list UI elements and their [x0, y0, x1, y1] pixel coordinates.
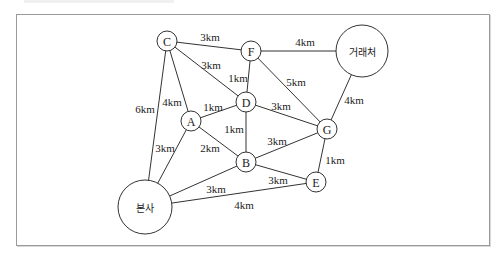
node-B: B: [236, 152, 256, 172]
node-label: C: [163, 35, 171, 49]
edge-distance-label: 4km: [162, 96, 182, 108]
node-label: E: [312, 176, 319, 190]
edge-distance-label: 1km: [224, 123, 244, 135]
edge-distance-label: 3km: [271, 100, 291, 112]
edge-distance-label: 4km: [295, 36, 315, 48]
edge-distance-label: 3km: [155, 142, 175, 154]
node-label: 본사: [136, 203, 154, 214]
node-A: A: [181, 111, 201, 131]
node-label: D: [242, 96, 251, 110]
edge-distance-label: 4km: [344, 94, 364, 106]
node-E: E: [306, 172, 326, 192]
edge-distance-label: 3km: [206, 183, 226, 195]
node-hq: 본사: [118, 180, 172, 234]
edge-distance-label: 4km: [234, 199, 254, 211]
edge-C-A: [167, 41, 191, 121]
node-label: F: [248, 45, 255, 59]
edge-distance-label: 1km: [325, 154, 345, 166]
node-C: C: [157, 31, 177, 51]
node-client: 거래처: [336, 25, 388, 77]
node-label: A: [187, 115, 196, 129]
node-D: D: [236, 92, 256, 112]
edge-distance-label: 3km: [201, 59, 221, 71]
node-G: G: [317, 119, 337, 139]
edge-distance-label: 2km: [200, 142, 220, 154]
edge-distance-label: 5km: [286, 76, 306, 88]
node-F: F: [241, 41, 261, 61]
edge-distance-label: 1km: [228, 72, 248, 84]
edge-distance-label: 6km: [135, 103, 155, 115]
node-label: 거래처: [349, 47, 376, 58]
edge-distance-label: 3km: [268, 174, 288, 186]
edge-F-G: [251, 51, 327, 129]
network-graph: 3km3km4km6km4km1km5km4km1km3km1km2km3km3…: [0, 0, 498, 257]
edge-distance-label: 3km: [200, 31, 220, 43]
edge-distance-label: 1km: [203, 101, 223, 113]
node-label: G: [323, 123, 332, 137]
edge-distance-label: 3km: [267, 135, 287, 147]
node-label: B: [242, 156, 250, 170]
